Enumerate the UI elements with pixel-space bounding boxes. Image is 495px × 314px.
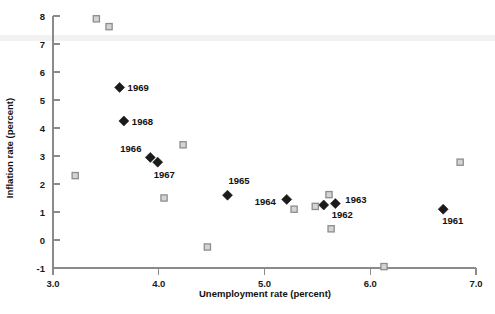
data-point-label: 1962 (332, 209, 353, 220)
data-point-diamond (319, 200, 329, 210)
y-tick-label: 7 (40, 39, 45, 50)
data-point-label: 1965 (228, 175, 250, 186)
data-point-square (180, 142, 186, 148)
data-point-square (326, 192, 332, 198)
y-tick-label: 3 (40, 151, 45, 162)
data-point-square (381, 264, 387, 270)
point-labels: 196119621963196419651966196719681969 (120, 82, 464, 226)
y-tick-label: 8 (40, 11, 45, 22)
data-point-square (457, 159, 463, 165)
data-point-diamond (330, 199, 340, 209)
y-tick-label: 6 (40, 67, 45, 78)
y-tick-label: 1 (40, 207, 46, 218)
x-tick-label: 6.0 (364, 278, 377, 289)
axes: -10123456783.04.05.06.07.0 (37, 11, 483, 290)
plot-area: -10123456783.04.05.06.07.0 1961196219631… (0, 0, 495, 314)
data-point-square (161, 195, 167, 201)
data-point-diamond (222, 190, 232, 200)
y-tick-label: 2 (40, 179, 45, 190)
data-point-square (204, 244, 210, 250)
data-point-label: 1969 (128, 82, 149, 93)
data-point-label: 1966 (120, 143, 141, 154)
x-tick-label: 4.0 (152, 278, 165, 289)
y-tick-label: 5 (40, 95, 46, 106)
data-point-diamond (282, 194, 292, 204)
data-point-label: 1961 (442, 215, 464, 226)
data-point-square (291, 206, 297, 212)
scatter-chart: -10123456783.04.05.06.07.0 1961196219631… (0, 0, 495, 314)
data-point-label: 1963 (345, 194, 366, 205)
data-point-diamond (438, 204, 448, 214)
data-point-square (312, 203, 318, 209)
y-tick-label: 0 (40, 235, 45, 246)
x-axis-title: Unemployment rate (percent) (199, 288, 331, 299)
y-axis-title: Inflation rate (percent) (4, 98, 15, 198)
data-point-label: 1967 (154, 169, 175, 180)
data-point-square (328, 226, 334, 232)
data-point-square (93, 16, 99, 22)
background-band (0, 35, 495, 41)
data-point-square (106, 24, 112, 30)
data-point-diamond (119, 116, 129, 126)
x-tick-label: 7.0 (469, 278, 482, 289)
data-point-label: 1968 (132, 116, 153, 127)
y-tick-label: -1 (37, 263, 46, 274)
y-tick-label: 4 (40, 123, 46, 134)
x-tick-label: 3.0 (46, 278, 59, 289)
data-point-square (72, 173, 78, 179)
data-point-label: 1964 (255, 196, 277, 207)
data-point-diamond (115, 82, 125, 92)
